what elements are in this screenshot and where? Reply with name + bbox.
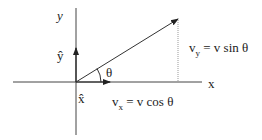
angle-label: θ bbox=[106, 66, 112, 79]
vx-rhs: = v cos θ bbox=[126, 94, 173, 109]
vy-rhs: = v sin θ bbox=[203, 40, 248, 55]
unit-x-label: x̂ bbox=[78, 92, 85, 105]
vector-components-diagram: y ŷ θ x̂ x vy = v sin θ vx = v cos θ bbox=[0, 0, 262, 140]
vx-subscript: x bbox=[119, 102, 124, 112]
vy-equation: vy = v sin θ bbox=[189, 41, 248, 58]
angle-arc bbox=[97, 69, 101, 83]
diagram-graphics bbox=[0, 0, 262, 140]
y-axis-label: y bbox=[57, 9, 63, 22]
unit-y-label: ŷ bbox=[57, 49, 64, 62]
x-axis-label: x bbox=[208, 77, 215, 90]
vx-equation: vx = v cos θ bbox=[112, 95, 173, 112]
vy-subscript: y bbox=[196, 48, 201, 58]
velocity-vector bbox=[76, 19, 178, 82]
